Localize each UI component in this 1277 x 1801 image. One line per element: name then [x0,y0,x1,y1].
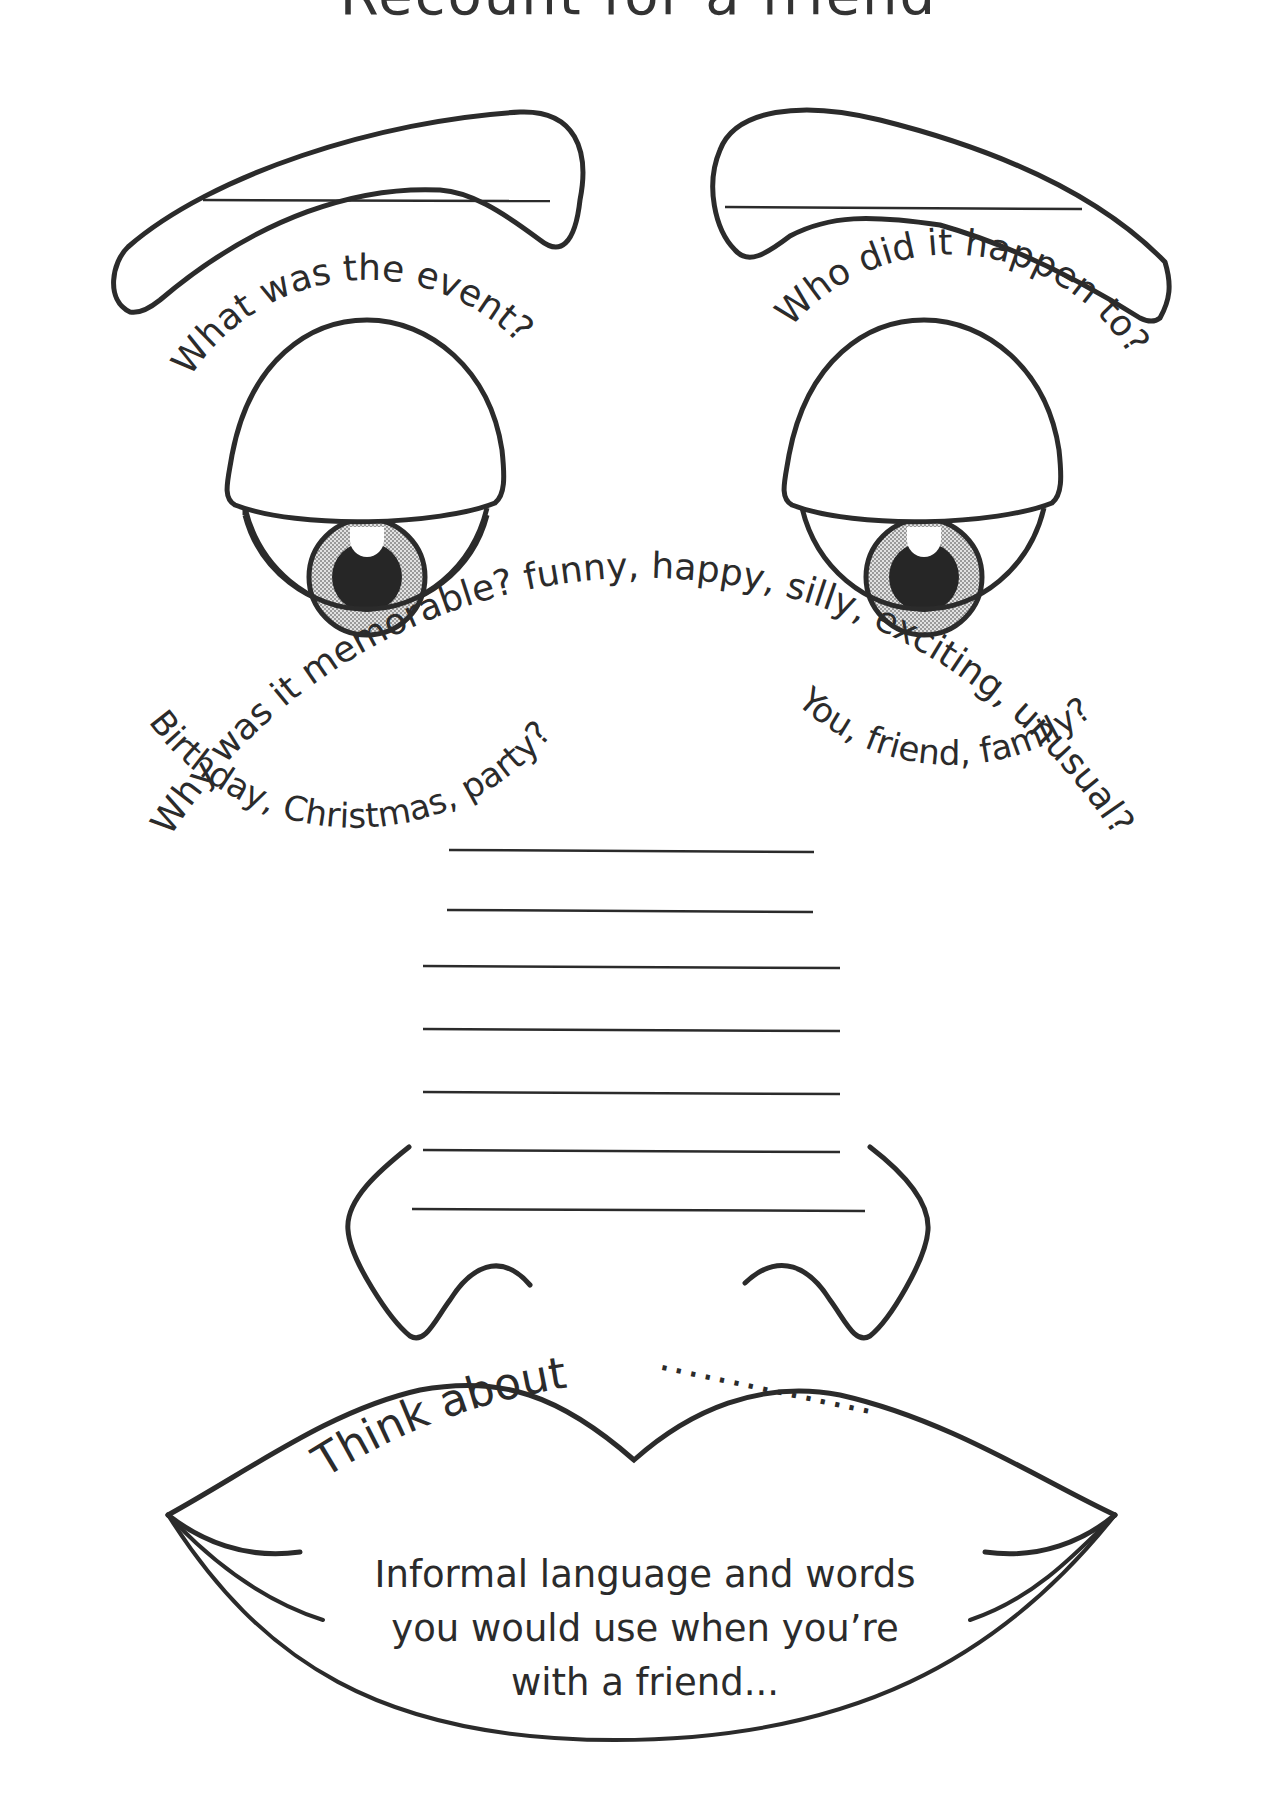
right-eyebrow-answer-line[interactable] [725,207,1082,209]
answer-line-6[interactable] [423,1150,840,1152]
worksheet: Recount for a friend [0,0,1277,1801]
answer-line-3[interactable] [423,966,840,968]
answer-line-4[interactable] [423,1029,840,1031]
mouth-caption-line-3: with a friend... [330,1656,960,1710]
answer-line-5[interactable] [423,1092,840,1094]
mouth-dots: ............... [656,1333,881,1424]
answer-line-2[interactable] [447,910,813,912]
mouth-caption-line-1: Informal language and words [330,1548,960,1602]
right-eyebrow [713,110,1169,321]
left-eyebrow-answer-line[interactable] [203,200,550,201]
answer-line-1[interactable] [449,850,814,852]
nose [348,1147,928,1338]
answer-line-7[interactable] [412,1209,865,1211]
mouth-caption-line-2: you would use when you’re [330,1602,960,1656]
mouth-caption: Informal language and words you would us… [330,1548,960,1710]
nose-answer-lines [412,850,865,1211]
